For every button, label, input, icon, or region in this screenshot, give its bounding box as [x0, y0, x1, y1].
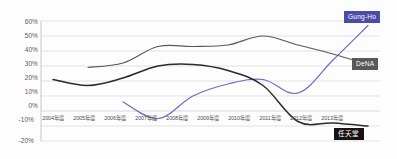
y-tick-neg10: -10%	[8, 116, 34, 123]
y-tick-60: 60%	[12, 18, 38, 25]
y-tick-20: 20%	[12, 74, 38, 81]
y-tick-50: 50%	[12, 32, 38, 39]
series-label-dena: DeNA	[352, 58, 378, 70]
y-tick-10: 10%	[12, 88, 38, 95]
series-label-gung-ho: Gung-Ho	[344, 11, 380, 23]
chart-container: 60% 50% 40% 30% 20% 10% 0% -10% -20% 200…	[0, 0, 397, 159]
x-tick-2013: 2013年度	[314, 115, 350, 121]
y-tick-30: 30%	[12, 60, 38, 67]
series-label-nintendo: 任天堂	[334, 128, 364, 140]
series-line-DeNA	[88, 36, 368, 68]
y-tick-40: 40%	[12, 46, 38, 53]
y-tick-0: 0%	[12, 102, 38, 109]
y-tick-neg20: -20%	[8, 137, 34, 144]
